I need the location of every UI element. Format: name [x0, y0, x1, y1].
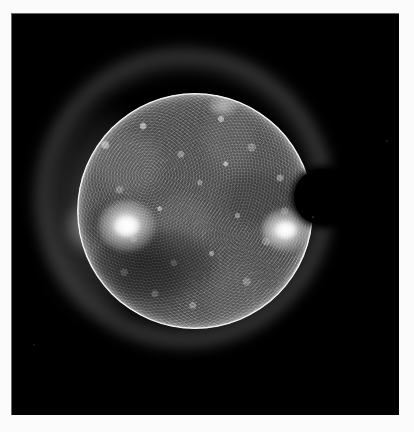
active-region-east-core: [275, 221, 297, 239]
solar-disk[interactable]: [77, 93, 313, 329]
coronal-hole-region-secondary: [82, 202, 143, 249]
occulter-shadow: [311, 163, 399, 231]
figure-root: [0, 0, 414, 432]
field-speck: [33, 344, 35, 346]
bright-limb-ring: [77, 93, 313, 329]
active-region-north-bright-point: [208, 96, 238, 116]
coronal-hole-region: [91, 230, 214, 301]
disk-large-scale-structure: [77, 93, 313, 329]
solar-image-panel[interactable]: [11, 13, 399, 415]
active-region-east: [262, 208, 310, 252]
disk-granulation-mottle: [77, 93, 313, 329]
active-region-west: [98, 200, 156, 252]
field-speck: [386, 140, 388, 142]
disk-granulation-speckles: [77, 93, 313, 329]
active-region-west-core: [114, 215, 140, 237]
